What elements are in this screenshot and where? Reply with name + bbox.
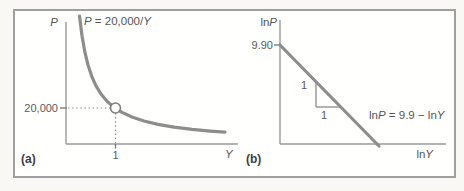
panel-b-equation: lnP = 9.9 − lnY — [369, 110, 444, 122]
variable-y: Y — [425, 148, 433, 160]
panel-a-y-tick-label: 20,000 — [16, 103, 58, 114]
panel-a-tag: (a) — [21, 153, 36, 165]
equation-middle: = 9.9 − — [386, 109, 428, 121]
equation-variable-y: Y — [143, 15, 151, 27]
panel-a-x-tick-label: 1 — [105, 150, 126, 161]
marked-point-circle — [111, 103, 121, 113]
ln-prefix: ln — [260, 16, 269, 28]
ln-prefix: ln — [416, 148, 425, 160]
variable-p: P — [269, 16, 277, 28]
slope-run-label: 1 — [316, 110, 332, 121]
figure-log-linearization: P P = 20,000/Y 20,000 1 Y (a) lnP 9.90 1… — [0, 0, 464, 191]
panel-b-y-axis-title: lnP — [246, 17, 277, 29]
slope-rise-label: 1 — [296, 80, 312, 91]
hyperbola-curve — [80, 16, 226, 132]
plots-canvas — [0, 0, 464, 191]
equation-variable-p: P — [84, 15, 92, 27]
panel-a-equation: P = 20,000/Y — [84, 16, 151, 28]
equation-middle: = 20,000/ — [92, 15, 143, 27]
ln-prefix: ln — [428, 109, 437, 121]
ln-prefix: ln — [369, 109, 378, 121]
panel-a-y-axis-title: P — [36, 17, 58, 29]
equation-variable-p: P — [378, 109, 386, 121]
panel-b-intercept-label: 9.90 — [241, 40, 273, 51]
panel-b-tag: (b) — [246, 153, 261, 165]
log-line — [280, 45, 379, 146]
panel-b-x-axis-title: lnY — [402, 149, 433, 161]
panel-a-x-axis-title: Y — [225, 149, 233, 161]
equation-variable-y: Y — [437, 109, 445, 121]
